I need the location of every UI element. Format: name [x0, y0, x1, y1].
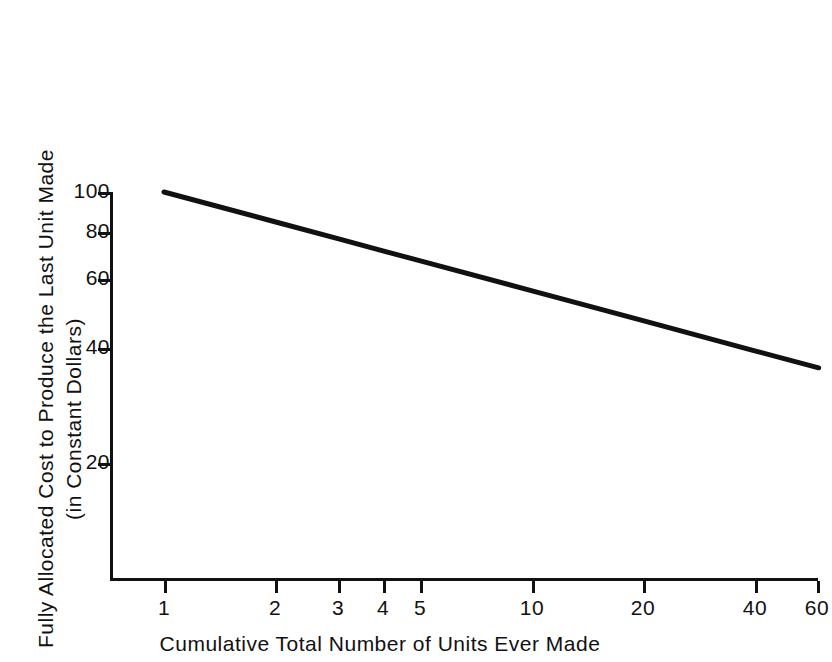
x-tick-40: [755, 581, 758, 593]
y-tick-label-100: 100: [64, 179, 110, 203]
x-axis-title: Cumulative Total Number of Units Ever Ma…: [110, 632, 650, 656]
x-axis-line: [110, 578, 818, 581]
x-tick-20: [643, 581, 646, 593]
x-tick-60: [817, 581, 820, 593]
x-tick-label-2: 2: [269, 596, 281, 620]
y-tick-label-60: 60: [64, 266, 110, 290]
x-tick-10: [532, 581, 535, 593]
chart-figure: Fully Allocated Cost to Produce the Last…: [0, 0, 832, 662]
experience-curve-line: [164, 192, 819, 368]
x-tick-label-4: 4: [377, 596, 389, 620]
x-tick-1: [164, 581, 167, 593]
plot-area: [0, 0, 832, 662]
x-tick-label-5: 5: [414, 596, 426, 620]
y-tick-label-80: 80: [64, 219, 110, 243]
x-tick-label-10: 10: [520, 596, 544, 620]
x-tick-label-20: 20: [631, 596, 655, 620]
x-tick-label-40: 40: [743, 596, 767, 620]
x-tick-4: [383, 581, 386, 593]
x-tick-5: [420, 581, 423, 593]
x-tick-2: [275, 581, 278, 593]
y-tick-label-20: 20: [64, 450, 110, 474]
y-axis-line: [110, 192, 113, 581]
y-tick-label-40: 40: [64, 335, 110, 359]
y-axis-title: Fully Allocated Cost to Produce the Last…: [0, 0, 64, 662]
x-tick-label-60: 60: [805, 596, 829, 620]
y-axis-title-line-1: Fully Allocated Cost to Produce the Last…: [34, 149, 58, 648]
x-tick-label-1: 1: [158, 596, 170, 620]
x-tick-label-3: 3: [332, 596, 344, 620]
x-tick-3: [338, 581, 341, 593]
